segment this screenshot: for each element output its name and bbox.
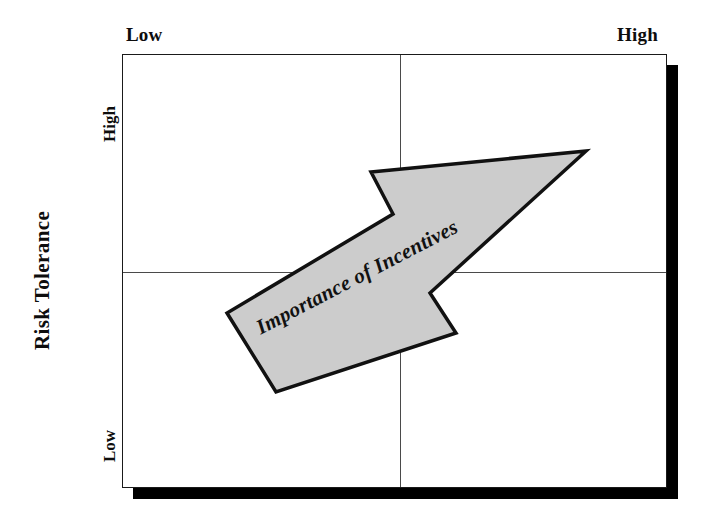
y-axis-title: Risk Tolerance	[30, 211, 55, 350]
y-axis-high-label: High	[100, 106, 120, 142]
x-axis-high-label: High	[617, 24, 658, 46]
x-axis-low-label: Low	[126, 24, 163, 46]
quadrant-divider-vertical	[400, 55, 401, 487]
y-axis-low-label: Low	[100, 430, 120, 462]
matrix-figure: Low High Risk Tolerance High Low Importa…	[0, 0, 727, 529]
quadrant-divider-horizontal	[123, 272, 666, 273]
